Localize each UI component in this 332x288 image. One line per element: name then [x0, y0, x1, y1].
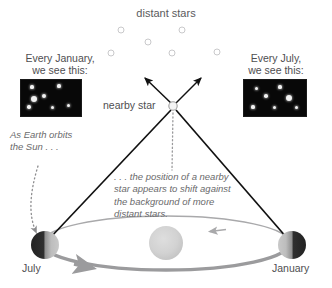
starfield-star [31, 96, 37, 102]
orbit-arrow-top [210, 230, 226, 232]
label-earth-january: January [272, 262, 309, 274]
starfield-star [295, 106, 298, 109]
distant-star [179, 27, 185, 33]
title-distant-stars: distant stars [0, 7, 332, 20]
starfield-star [30, 85, 33, 88]
sun [149, 226, 183, 260]
caption-every-january: Every January, we see this: [14, 52, 106, 77]
earth-january [278, 231, 306, 259]
distant-stars-group [108, 27, 220, 56]
starfield-star [67, 104, 70, 107]
starfield-star [264, 94, 268, 98]
earth-july [31, 231, 59, 259]
distant-star [145, 39, 151, 45]
distant-star [118, 27, 124, 33]
starfield-star [57, 84, 60, 87]
nearby-star [169, 102, 177, 110]
distant-star [214, 49, 220, 55]
note-earth-orbits-sun: As Earth orbits the Sun . . . [10, 129, 76, 153]
note-parallax-shift: . . . the position of a nearby star appe… [114, 171, 238, 220]
starfield-star [278, 85, 281, 88]
starfield-star [51, 106, 54, 109]
apparent-direction-arrow-right [175, 78, 201, 104]
starfield-star [42, 94, 47, 99]
label-nearby-star: nearby star [103, 99, 156, 111]
caption-every-july: Every July, we see this: [236, 52, 316, 77]
starfield-star [286, 95, 292, 101]
starfield-star [251, 105, 254, 108]
starfield-star [255, 87, 258, 90]
label-earth-july: July [22, 262, 41, 274]
distant-star [169, 50, 175, 56]
starfield-january-image [20, 79, 82, 117]
starfield-july-image [243, 79, 307, 117]
parallax-diagram: distant stars Every January, we see this… [0, 0, 332, 288]
starfield-star [27, 105, 30, 108]
distant-star [108, 50, 114, 56]
earth-note-leader-dotted [31, 166, 38, 232]
starfield-star [273, 106, 276, 109]
nearby-star-leader-dotted [172, 113, 173, 170]
